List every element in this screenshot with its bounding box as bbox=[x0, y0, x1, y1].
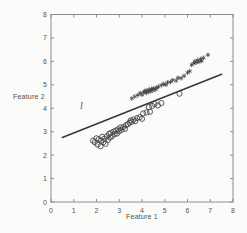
scatter-plot: 012345678012345678l bbox=[0, 0, 247, 233]
y-tick-label: 1 bbox=[43, 175, 47, 182]
y-tick-label: 8 bbox=[43, 11, 47, 18]
y-tick-label: 7 bbox=[43, 34, 47, 41]
boundary-line-label: l bbox=[80, 101, 83, 111]
data-point-circle bbox=[125, 122, 130, 127]
data-point-asterisk bbox=[130, 96, 134, 101]
y-tick-label: 5 bbox=[43, 81, 47, 88]
data-point-circle bbox=[141, 111, 146, 116]
decision-boundary-line bbox=[62, 74, 221, 137]
plot-box bbox=[51, 15, 233, 203]
y-tick-label: 3 bbox=[43, 128, 47, 135]
data-point-circle bbox=[177, 91, 182, 96]
y-axis-label: Feature 2 bbox=[13, 93, 45, 100]
x-axis-label: Feature 1 bbox=[0, 213, 247, 220]
y-tick-label: 6 bbox=[43, 58, 47, 65]
y-tick-label: 4 bbox=[43, 105, 47, 112]
data-point-asterisk bbox=[190, 63, 194, 68]
scatter-figure: 012345678012345678l Feature 2 Feature 1 bbox=[0, 0, 247, 233]
y-tick-label: 2 bbox=[43, 152, 47, 159]
y-tick-label: 0 bbox=[43, 199, 47, 206]
data-point-circle bbox=[147, 109, 152, 114]
data-point-asterisk bbox=[206, 53, 210, 58]
